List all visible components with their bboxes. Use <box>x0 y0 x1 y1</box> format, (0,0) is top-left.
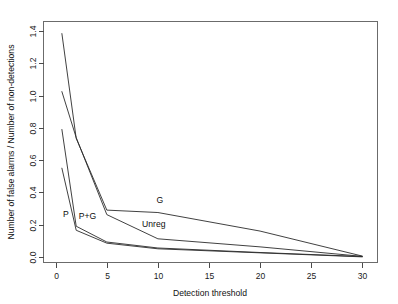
y-tick-label-1: 0.2 <box>28 219 38 231</box>
chart-container: 051015202530 0.00.20.40.60.81.01.21.4 GU… <box>0 0 398 304</box>
x-tick-label-4: 20 <box>256 271 266 281</box>
y-tick-label-5: 1.0 <box>28 90 38 102</box>
y-axis-title: Number of false alarms / Number of non-d… <box>6 45 16 240</box>
x-tick-label-0: 0 <box>54 271 59 281</box>
chart-svg: 051015202530 0.00.20.40.60.81.01.21.4 GU… <box>0 0 398 304</box>
series-label-pplusg: P+G <box>79 211 97 221</box>
x-axis-title: Detection threshold <box>173 288 247 298</box>
series-label-unreg: Unreg <box>142 219 166 229</box>
x-tick-label-5: 25 <box>307 271 317 281</box>
y-tick-label-6: 1.2 <box>28 57 38 69</box>
y-tick-label-3: 0.6 <box>28 154 38 166</box>
x-tick-label-1: 5 <box>105 271 110 281</box>
series-label-g: G <box>157 195 164 205</box>
y-tick-label-4: 0.8 <box>28 122 38 134</box>
series-label-p: P <box>63 209 69 219</box>
y-tick-label-7: 1.4 <box>28 25 38 37</box>
chart-background <box>0 0 398 304</box>
x-tick-label-3: 15 <box>205 271 215 281</box>
y-tick-label-0: 0.0 <box>28 251 38 263</box>
x-tick-label-6: 30 <box>358 271 368 281</box>
y-tick-label-2: 0.4 <box>28 186 38 198</box>
x-tick-label-2: 10 <box>154 271 164 281</box>
